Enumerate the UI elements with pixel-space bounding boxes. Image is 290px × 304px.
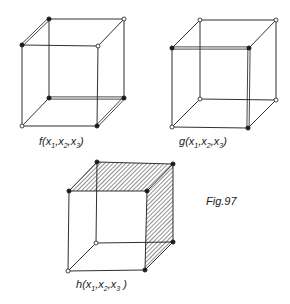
cube-f-label: f(x1,x2,x3) [39,136,84,149]
arg-index: 3 [219,142,223,149]
arg-index: 2 [207,142,211,149]
vertex-open-dot [20,124,24,128]
function-name: h [76,278,82,290]
cube-f [20,17,126,128]
cube-edge [22,45,98,46]
cube-edge-double [249,48,250,128]
vertex-filled-dot [95,160,99,164]
cube-edge [172,20,200,48]
vertex-filled-dot [170,46,174,50]
cube-g-label: g(x1,x2,x3) [179,136,227,149]
cube-edge [248,100,276,128]
cube-edge [200,99,276,100]
cube-edge [172,127,248,128]
vertex-filled-dot [171,162,175,166]
arg-index: 3 [76,142,80,149]
cube-h-label: h(x1,x2,x3 ) [76,279,127,292]
arg-index: 1 [51,142,55,149]
arg-index: 3 [116,285,120,292]
cube-edge [68,243,96,271]
vertex-open-dot [198,97,202,101]
arg-index: 2 [104,285,108,292]
vertex-open-dot [274,18,278,22]
function-name: f [39,135,42,147]
cube-edge-double [98,99,125,127]
vertex-open-dot [66,269,70,273]
arg-index: 2 [64,142,68,149]
cube-edge [249,20,276,48]
cube-edge [172,99,200,127]
cube-edge-double [247,48,248,128]
cube-edge-double [23,20,50,46]
cube-edge-double [21,18,48,44]
vertex-filled-dot [20,43,24,47]
cube-edge-double [96,97,123,125]
arg-index: 1 [194,142,198,149]
vertex-open-dot [274,98,278,102]
vertex-open-dot [122,17,126,21]
boolean-cube-figure [0,0,290,304]
vertex-filled-dot [143,268,147,272]
cube-edge [68,270,145,271]
cube-edge [22,98,49,126]
cube-g [170,18,278,130]
vertex-open-dot [198,18,202,22]
vertex-filled-dot [95,124,99,128]
function-name: g [179,135,185,147]
vertex-filled-dot [47,17,51,21]
figure-caption: Fig.97 [206,196,237,207]
cube-edge [68,191,69,271]
vertex-filled-dot [247,46,251,50]
arg-index: 1 [91,285,95,292]
vertex-open-dot [170,125,174,129]
vertex-filled-dot [67,189,71,193]
vertex-filled-dot [145,189,149,193]
vertex-filled-dot [171,240,175,244]
vertex-open-dot [96,44,100,48]
vertex-open-dot [94,241,98,245]
vertex-filled-dot [246,126,250,130]
cube-edge [98,19,124,46]
cube-h [66,160,175,273]
vertex-filled-dot [47,96,51,100]
cube-edge [97,46,98,126]
vertex-filled-dot [122,96,126,100]
